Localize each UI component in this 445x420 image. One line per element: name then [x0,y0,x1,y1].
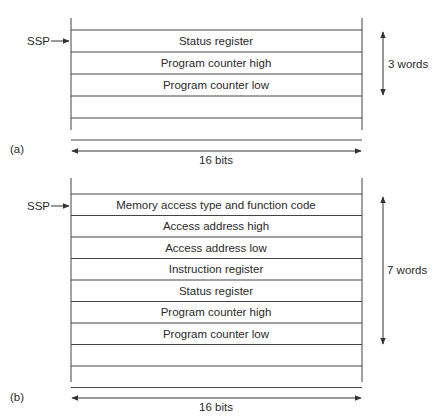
figure-caption: (a) [10,143,24,155]
stack-rows-a: Status registerProgram counter highProgr… [71,30,362,140]
stack-row-label: Instruction register [169,263,264,275]
stack-rows-b: Memory access type and function codeAcce… [71,194,362,388]
stack-row-label: Program counter high [161,57,272,69]
span-label: 7 words [387,264,428,276]
stack-frame-diagram: Status registerProgram counter highProgr… [0,0,445,420]
stack-row-label: Access address low [165,242,267,254]
width-label: 16 bits [199,154,233,166]
stack-row-label: Memory access type and function code [116,199,315,211]
stack-row-label: Program counter low [163,79,270,91]
ssp-label: SSP [27,200,50,212]
stack-frame-b: Memory access type and function codeAcce… [10,178,428,413]
stack-row-label: Status register [179,285,253,297]
stack-row-label: Status register [179,35,253,47]
figure-caption: (b) [10,391,24,403]
ssp-label: SSP [27,35,50,47]
stack-frame-a: Status registerProgram counter highProgr… [10,18,429,166]
stack-row-label: Program counter high [161,306,272,318]
width-label: 16 bits [199,401,233,413]
span-label: 3 words [388,58,429,70]
stack-row-label: Access address high [163,220,269,232]
stack-row-label: Program counter low [163,328,270,340]
